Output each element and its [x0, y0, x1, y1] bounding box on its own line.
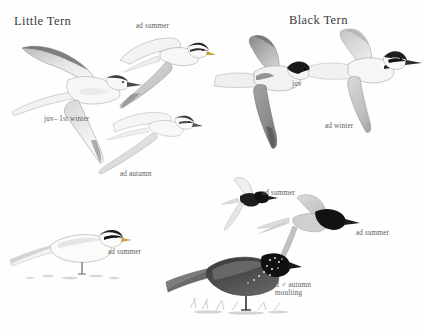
ground-vegetation: [190, 298, 280, 310]
caption-black-tern-ad-winter: ad winter: [325, 122, 353, 131]
bird-wing-lower: [224, 202, 244, 230]
figure-little-tern-ad-summer-flight: [112, 30, 217, 115]
bird-tail: [107, 128, 149, 140]
figure-black-tern-ad-winter-flight: [308, 24, 424, 134]
caption-little-tern-ad-summer-perched: ad summer: [108, 248, 141, 257]
bird-tail: [214, 73, 260, 88]
caption-black-tern-ad-summer-lower: ad summer: [356, 229, 389, 238]
bird-tail: [308, 63, 352, 79]
ground-texture: [194, 310, 288, 314]
caption-black-tern-juv: juv: [292, 80, 302, 89]
caption-little-tern-ad-summer-flight: ad summer: [136, 22, 169, 31]
bird-bill: [121, 238, 132, 242]
bird-bill: [192, 123, 203, 127]
bird-eye: [280, 261, 282, 263]
caption-little-tern-ad-autumn: ad autumn: [120, 170, 152, 179]
bird-eye: [202, 49, 204, 51]
bird-identification-plate: Little Tern Black Tern: [0, 0, 424, 334]
bird-bill: [405, 60, 422, 65]
bird-eye: [188, 121, 190, 123]
bird-eye: [304, 68, 306, 70]
caption-black-tern-ad-male-autumn-line2: moulting: [275, 289, 302, 298]
bird-eye: [115, 236, 117, 238]
bird-bill: [288, 262, 302, 269]
caption-little-tern-juv-1st-winter: juv– 1st winter: [44, 115, 89, 124]
bird-eye: [400, 58, 402, 60]
bird-tail: [222, 198, 239, 204]
ground-texture: [26, 275, 119, 280]
bird-bill: [344, 219, 360, 225]
species-title-little-tern: Little Tern: [14, 14, 71, 29]
figure-little-tern-ad-autumn-flight: [95, 104, 205, 176]
